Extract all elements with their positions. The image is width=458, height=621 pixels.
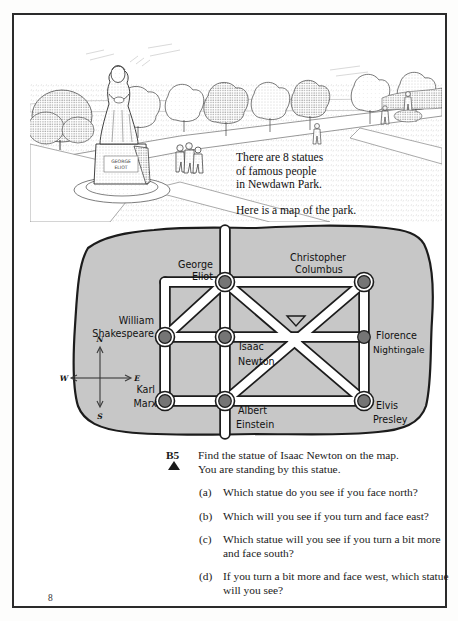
intro-line-2: of famous people: [236, 165, 421, 179]
label-elvis-presley-line1: Elvis: [376, 400, 398, 411]
part-c-text: Which statue will you see if you turn a …: [223, 532, 456, 560]
triangle-bullet-icon: [168, 461, 180, 470]
label-karl-marx-line1: Karl: [136, 384, 155, 395]
part-c-label: (c): [199, 532, 212, 546]
intro-line-3: in Newdawn Park.: [236, 178, 421, 192]
label-george-eliot-line2: Eliot: [192, 271, 213, 282]
label-isaac-newton-line1: Isaac: [239, 341, 264, 352]
node-george-eliot[interactable]: [216, 273, 235, 292]
label-albert-einstein-line2: Einstein: [236, 419, 274, 430]
part-d-label: (d): [199, 569, 212, 583]
plinth-name-line1: GEORGE: [111, 159, 131, 164]
node-christopher-columbus[interactable]: [355, 273, 374, 292]
part-b-label: (b): [199, 509, 212, 523]
node-isaac-newton[interactable]: [216, 328, 235, 347]
label-florence-nightingale-line1: Florence: [376, 330, 417, 341]
node-florence-nightingale[interactable]: [358, 331, 371, 344]
compass-north-label: N: [96, 335, 105, 344]
label-christopher-columbus-line1: Christopher: [290, 252, 346, 263]
intro-text: There are 8 statues of famous people in …: [236, 151, 421, 217]
question-stem: B5 Find the statue of Isaac Newton on th…: [166, 448, 456, 476]
label-albert-einstein-line1: Albert: [238, 405, 267, 416]
label-karl-marx-line2: Marx: [133, 398, 157, 409]
question-parts-list: (a) Which statue do you see if you face …: [166, 485, 456, 597]
node-karl-marx[interactable]: [156, 392, 175, 411]
label-elvis-presley-line2: Presley: [373, 414, 408, 425]
bush-left: [30, 90, 94, 150]
part-d-text: If you turn a bit more and face west, wh…: [223, 569, 456, 597]
node-elvis-presley[interactable]: [355, 392, 374, 411]
compass-south-label: S: [97, 412, 103, 421]
label-florence-nightingale-line2: Nightingale: [373, 345, 425, 355]
label-george-eliot-line1: George: [178, 259, 213, 270]
compass-west-label: W: [60, 374, 70, 383]
question-stem-line-1: Find the statue of Isaac Newton on the m…: [198, 448, 456, 462]
page-number: 8: [48, 593, 53, 603]
question-stem-line-2: You are standing by this statue.: [198, 462, 456, 476]
label-christopher-columbus-line2: Columbus: [295, 264, 343, 275]
node-william-shakespeare[interactable]: [156, 328, 175, 347]
intro-line-1: There are 8 statues: [236, 151, 421, 165]
park-map: George Eliot Christopher Columbus Willia…: [42, 220, 442, 442]
plinth-name-line2: ELIOT: [114, 165, 127, 170]
intro-line-4: Here is a map of the park.: [236, 204, 421, 218]
question-part-c: (c) Which statue will you see if you tur…: [199, 532, 456, 560]
question-block: B5 Find the statue of Isaac Newton on th…: [166, 448, 456, 607]
intro-spacer: [236, 192, 421, 204]
part-a-text: Which statue do you see if you face nort…: [223, 485, 456, 499]
page-frame: GEORGE ELIOT: [12, 13, 447, 608]
question-part-b: (b) Which will you see if you turn and f…: [199, 509, 456, 523]
compass-east-label: E: [133, 374, 140, 383]
part-b-text: Which will you see if you turn and face …: [223, 509, 456, 523]
label-isaac-newton-line2: Newton: [238, 356, 275, 367]
worksheet-page: GEORGE ELIOT: [0, 0, 458, 621]
node-albert-einstein[interactable]: [216, 392, 235, 411]
part-a-label: (a): [199, 485, 212, 499]
label-william-shakespeare-line1: William: [119, 315, 154, 326]
question-part-a: (a) Which statue do you see if you face …: [199, 485, 456, 499]
question-part-d: (d) If you turn a bit more and face west…: [199, 569, 456, 597]
